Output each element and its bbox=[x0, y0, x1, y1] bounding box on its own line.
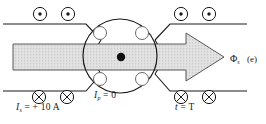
lower-boundary-left bbox=[3, 74, 101, 91]
persistent-current-label: Ip = 0 bbox=[94, 91, 116, 101]
persistent-current-subscript: p bbox=[97, 95, 100, 101]
flux-label: Φs bbox=[230, 54, 240, 64]
out-of-page-marker-top-right-2 bbox=[202, 7, 215, 20]
time-value: = T bbox=[180, 102, 194, 112]
time-label: t = T bbox=[175, 103, 194, 113]
into-page-marker-bottom-left-2 bbox=[60, 90, 73, 103]
out-of-page-marker-top-right-1 bbox=[174, 7, 187, 20]
center-flux-dot-icon bbox=[117, 53, 125, 61]
source-current-value: = + 10 A bbox=[24, 102, 59, 112]
upper-boundary-right bbox=[155, 24, 247, 40]
upper-boundary-left bbox=[3, 24, 101, 40]
time-symbol: t bbox=[175, 102, 178, 112]
out-of-page-marker-top-left-1 bbox=[33, 7, 46, 20]
flux-subscript: s bbox=[237, 58, 239, 65]
out-of-page-marker-top-left-2 bbox=[61, 7, 74, 20]
source-current-subscript: s bbox=[19, 107, 22, 113]
panel-label: (e) bbox=[247, 55, 257, 64]
lower-boundary-right bbox=[155, 74, 247, 91]
physics-figure: Is = + 10 A Ip = 0 t = T Φs (e) bbox=[0, 0, 266, 124]
into-page-marker-bottom-right-2 bbox=[202, 90, 215, 103]
persistent-current-value: = 0 bbox=[103, 90, 116, 100]
source-current-label: Is = + 10 A bbox=[16, 103, 60, 113]
